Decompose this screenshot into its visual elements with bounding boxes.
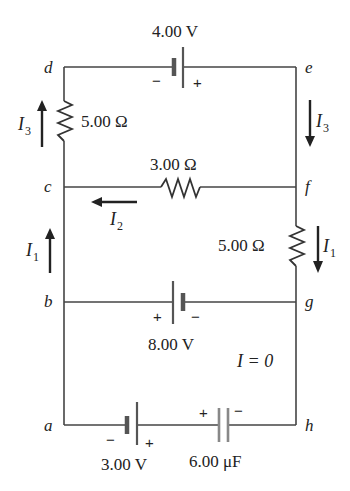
- node-label-g: g: [305, 292, 314, 311]
- svg-text:3: 3: [323, 121, 329, 135]
- svg-text:1: 1: [33, 250, 39, 264]
- battery-8v-pos-sign: +: [153, 308, 162, 325]
- svg-text:3: 3: [25, 124, 31, 138]
- node-label-e: e: [305, 58, 313, 77]
- battery-4v-pos-sign: +: [193, 74, 202, 91]
- current-label-i3-right: I 3: [315, 111, 329, 135]
- zero-current-label: I = 0: [236, 351, 273, 371]
- battery-8v-label: 8.00 V: [148, 335, 195, 354]
- current-label-i1-right: I 1: [322, 236, 336, 260]
- battery-8v-neg-sign: −: [191, 308, 200, 325]
- svg-text:I: I: [315, 111, 323, 131]
- node-label-b: b: [44, 292, 53, 311]
- current-label-i2: I 2: [109, 209, 123, 233]
- arrow-up-icon-i1-left: [45, 228, 55, 273]
- node-label-a: a: [44, 416, 53, 435]
- svg-text:2: 2: [117, 219, 123, 233]
- node-label-d: d: [44, 58, 53, 77]
- battery-4v: [174, 47, 183, 88]
- battery-3v-label: 3.00 V: [101, 455, 148, 474]
- svg-text:I: I: [17, 114, 25, 134]
- battery-3v-neg-sign: −: [106, 431, 115, 448]
- node-label-c: c: [44, 177, 52, 196]
- arrow-up-icon-i3-left: [37, 100, 47, 147]
- current-label-i3-left: I 3: [17, 114, 31, 138]
- capacitor-label: 6.00 μF: [189, 452, 242, 471]
- arrow-left-icon-i2: [91, 197, 137, 207]
- node-label-h: h: [305, 416, 314, 435]
- capacitor-neg-sign: −: [234, 402, 243, 419]
- arrow-down-icon-i1-right: [313, 226, 323, 273]
- resistor-middle-label: 3.00 Ω: [150, 155, 197, 174]
- capacitor-6uf: [219, 408, 228, 442]
- battery-3v-pos-sign: +: [145, 434, 154, 451]
- battery-4v-neg-sign: −: [152, 72, 161, 89]
- circuit-diagram: d e c f b g a h 4.00 V − + 5.00 Ω 3.00 Ω…: [0, 0, 350, 491]
- current-label-i1-left: I 1: [25, 240, 39, 264]
- resistor-left-label: 5.00 Ω: [81, 112, 128, 131]
- node-label-f: f: [305, 177, 312, 196]
- battery-3v: [127, 402, 137, 445]
- battery-4v-label: 4.00 V: [152, 22, 199, 41]
- battery-8v: [173, 281, 183, 324]
- svg-text:1: 1: [330, 246, 336, 260]
- capacitor-pos-sign: +: [199, 404, 208, 421]
- svg-text:I: I: [25, 240, 33, 260]
- resistor-right-label: 5.00 Ω: [218, 236, 265, 255]
- resistor-left-5ohm: [58, 101, 72, 141]
- arrow-down-icon-i3-right: [305, 100, 315, 147]
- resistor-right-5ohm: [290, 226, 304, 266]
- resistor-middle-3ohm: [161, 179, 200, 197]
- svg-text:I: I: [322, 236, 330, 256]
- svg-text:I: I: [109, 209, 117, 229]
